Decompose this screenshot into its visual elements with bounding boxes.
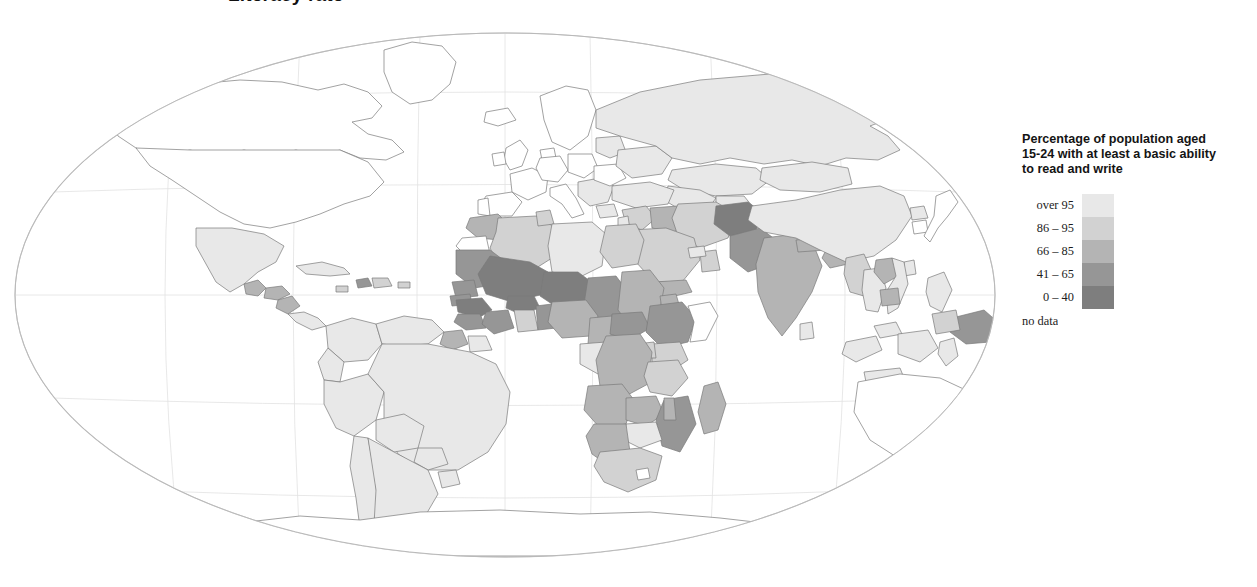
country-west-papua — [932, 310, 960, 334]
country-jamaica — [336, 286, 348, 292]
country-portugal — [478, 198, 490, 216]
country-uae-qatar — [688, 246, 706, 258]
map-legend: Percentage of population aged 15-24 with… — [1022, 132, 1250, 332]
legend-label-no-data: no data — [1022, 315, 1058, 327]
country-puerto-rico — [398, 282, 410, 288]
country-south-korea — [912, 220, 928, 234]
legend-row-0-40: 0 – 40 — [1022, 286, 1246, 309]
legend-swatch-86-95 — [1082, 217, 1114, 240]
country-alaska — [88, 104, 132, 128]
country-new-zealand — [998, 434, 1010, 460]
country-malawi — [664, 398, 676, 420]
legend-header-line-3: to read and write — [1022, 162, 1246, 177]
legend-header: Percentage of population aged 15-24 with… — [1022, 132, 1246, 178]
world-map — [0, 0, 1010, 587]
country-dominican-republic — [372, 278, 392, 288]
legend-label-66-85: 66 – 85 — [1022, 245, 1082, 257]
legend-row-86-95: 86 – 95 — [1022, 217, 1246, 240]
legend-swatch-41-65 — [1082, 263, 1114, 286]
legend-swatch-over-95 — [1082, 194, 1114, 217]
country-greece — [596, 204, 618, 218]
legend-scale: over 95 86 – 95 66 – 85 41 – 65 0 – 40 n… — [1022, 194, 1246, 332]
legend-row-over-95: over 95 — [1022, 194, 1246, 217]
country-canada — [110, 80, 404, 160]
world-map-svg — [0, 0, 1010, 587]
country-tasmania — [944, 466, 962, 480]
country-sri-lanka — [800, 322, 814, 340]
legend-label-86-95: 86 – 95 — [1022, 222, 1082, 234]
legend-row-no-data: no data — [1022, 312, 1246, 332]
country-lesotho — [636, 468, 650, 480]
legend-swatch-0-40 — [1082, 286, 1114, 309]
legend-label-0-40: 0 – 40 — [1022, 291, 1082, 303]
legend-row-66-85: 66 – 85 — [1022, 240, 1246, 263]
country-ghana — [514, 310, 538, 332]
legend-row-41-65: 41 – 65 — [1022, 263, 1246, 286]
country-ireland — [492, 152, 506, 166]
legend-header-line-1: Percentage of population aged — [1022, 132, 1246, 147]
legend-label-over-95: over 95 — [1022, 199, 1082, 211]
country-cambodia — [880, 288, 900, 306]
legend-swatch-no-data — [1058, 310, 1090, 333]
legend-label-41-65: 41 – 65 — [1022, 268, 1082, 280]
legend-header-line-2: 15-24 with at least a basic ability — [1022, 147, 1246, 162]
legend-swatch-66-85 — [1082, 240, 1114, 263]
